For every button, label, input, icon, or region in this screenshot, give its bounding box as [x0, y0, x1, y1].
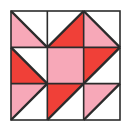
cell-center [47, 47, 83, 83]
cell-middle-left [11, 47, 47, 83]
cell-top-left [11, 11, 47, 47]
cell-bottom-center [47, 84, 83, 120]
cell-bottom-right [84, 84, 120, 120]
cell-top-center [47, 11, 83, 47]
cell-middle-right [84, 47, 120, 83]
quilt-cells-group [11, 11, 120, 120]
cell-bottom-left [11, 84, 47, 120]
quilt-block-figure [0, 0, 130, 129]
quilt-block-svg [0, 0, 130, 129]
cell-top-right [84, 11, 120, 47]
cell-center-patch [47, 47, 83, 83]
